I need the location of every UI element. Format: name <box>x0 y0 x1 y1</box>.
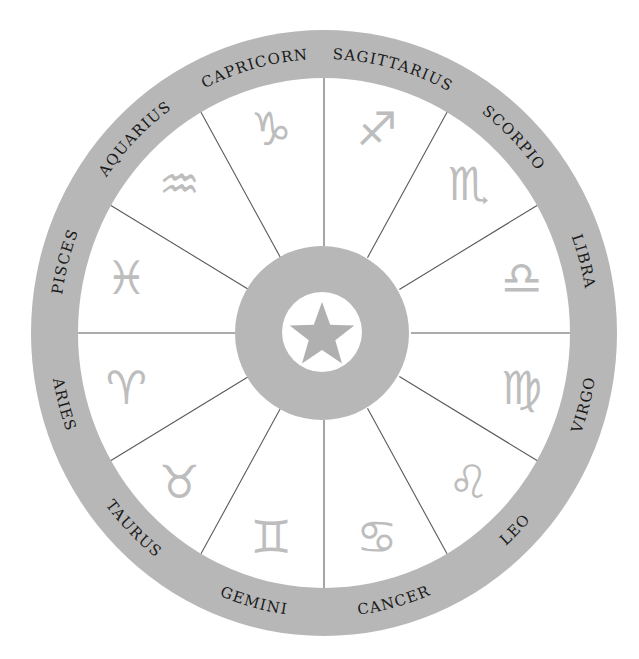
virgo-icon: ♍︎ <box>501 361 542 415</box>
aquarius-icon: ♒︎ <box>159 157 200 211</box>
scorpio-icon: ♏︎ <box>448 157 489 211</box>
zodiac-wheel: ♐︎♏︎♎︎♍︎♌︎♋︎♊︎♉︎♈︎♓︎♒︎♑︎ SAGITTARIUSSCOR… <box>0 0 639 659</box>
libra-icon: ♎︎ <box>501 251 542 305</box>
gemini-icon: ♊︎ <box>250 510 291 564</box>
aries-icon: ♈︎ <box>106 361 147 415</box>
sagittarius-icon: ♐︎ <box>356 102 397 156</box>
cancer-icon: ♋︎ <box>356 510 397 564</box>
capricorn-icon: ♑︎ <box>250 102 291 156</box>
taurus-icon: ♉︎ <box>159 455 200 509</box>
pisces-icon: ♓︎ <box>106 251 147 305</box>
leo-icon: ♌︎ <box>448 455 489 509</box>
